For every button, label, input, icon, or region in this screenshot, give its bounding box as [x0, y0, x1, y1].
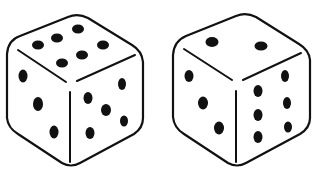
- dice-drawing: [0, 0, 315, 182]
- right-die: [173, 14, 310, 165]
- left-die: [7, 15, 143, 165]
- left-die-outline: [7, 15, 143, 165]
- dice-illustration: Two white six-sided dice, black line dra…: [0, 0, 315, 182]
- right-die-outline: [173, 14, 310, 165]
